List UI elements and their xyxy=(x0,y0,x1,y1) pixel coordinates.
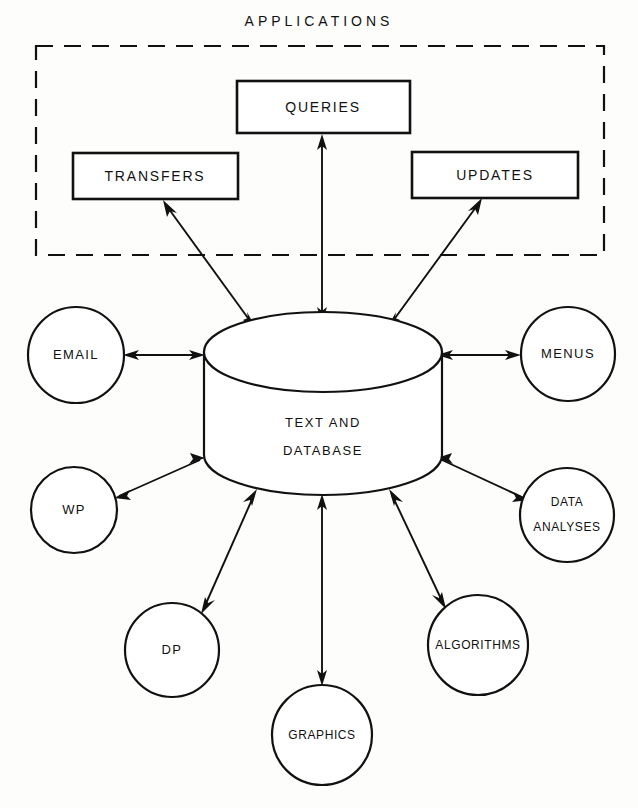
cylinder-top-ellipse xyxy=(204,312,442,392)
cylinder-label-line1: TEXT AND xyxy=(285,415,361,430)
node-wp[interactable]: WP xyxy=(31,467,117,553)
queries-label: QUERIES xyxy=(285,99,361,115)
connector-menus xyxy=(437,350,521,360)
connector-email xyxy=(123,350,205,360)
node-queries[interactable]: QUERIES xyxy=(237,81,410,133)
node-updates[interactable]: UPDATES xyxy=(412,152,578,198)
node-transfers[interactable]: TRANSFERS xyxy=(73,153,238,199)
node-dp[interactable]: DP xyxy=(125,603,219,697)
connector-dp xyxy=(201,489,257,614)
transfers-label: TRANSFERS xyxy=(105,168,206,184)
wp-label: WP xyxy=(62,502,86,517)
arrow-head-to-transfers xyxy=(163,200,177,217)
email-label: EMAIL xyxy=(53,347,99,362)
connector-graphics xyxy=(317,494,327,686)
updates-label: UPDATES xyxy=(456,167,534,183)
group-title-applications: APPLICATIONS xyxy=(245,13,394,29)
node-text-and-database[interactable]: TEXT AND DATABASE xyxy=(204,312,442,495)
algorithms-label: ALGORITHMS xyxy=(435,638,520,652)
dp-label: DP xyxy=(162,642,183,657)
connector-algorithms xyxy=(389,489,446,609)
data-analyses-label-line2: ANALYSES xyxy=(533,520,600,534)
cylinder-label-line2: DATABASE xyxy=(283,443,363,458)
connector-transfers xyxy=(163,200,257,330)
graphics-label: GRAPHICS xyxy=(288,728,355,742)
node-menus[interactable]: MENUS xyxy=(521,307,615,401)
data-analyses-label-line1: DATA xyxy=(551,495,584,509)
node-data-analyses[interactable]: DATA ANALYSES xyxy=(520,468,614,562)
diagram-canvas: APPLICATIONS xyxy=(0,0,638,808)
menus-label: MENUS xyxy=(541,346,595,361)
node-email[interactable]: EMAIL xyxy=(28,307,124,403)
applications-group-boundary xyxy=(36,46,604,255)
applications-database-diagram: APPLICATIONS xyxy=(0,0,638,808)
node-algorithms[interactable]: ALGORITHMS xyxy=(428,595,528,695)
connector-data-analyses xyxy=(437,453,529,502)
connector-wp xyxy=(114,453,205,500)
arrow-head-to-updates xyxy=(468,198,482,215)
connector-queries xyxy=(317,134,327,323)
data-analyses-circle xyxy=(520,468,614,562)
connector-updates xyxy=(386,198,482,330)
node-graphics[interactable]: GRAPHICS xyxy=(272,685,372,785)
